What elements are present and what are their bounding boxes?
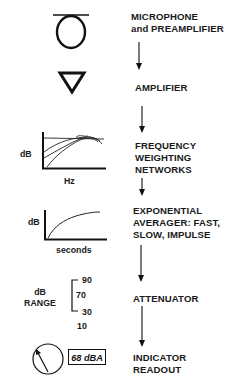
averager-graph-ylabel: dB (28, 217, 40, 228)
label-line: INDICATOR (133, 352, 186, 364)
label-line: FREQUENCY (135, 140, 196, 152)
weighting-graph-xlabel: Hz (64, 176, 75, 187)
label-line: AVERAGER: FAST, (133, 217, 220, 229)
stage-label-amplifier: AMPLIFIER (135, 82, 188, 94)
signal-chain-graphics (0, 0, 245, 392)
label-line: and PREAMPLIFIER (131, 23, 224, 35)
label-line: EXPONENTIAL (133, 205, 220, 217)
frequency-response-graph-icon (42, 132, 106, 169)
range-label-line: RANGE (21, 298, 59, 309)
microphone-icon (53, 15, 89, 48)
stage-label-indicator: INDICATOR READOUT (133, 352, 186, 376)
digital-readout: 68 dBA (68, 349, 106, 365)
label-line: SLOW, IMPULSE (133, 229, 220, 241)
range-value-30: 30 (82, 307, 92, 318)
range-label-line: dB (21, 287, 59, 298)
averager-graph-xlabel: seconds (56, 245, 92, 256)
stage-label-weighting: FREQUENCY WEIGHTING NETWORKS (135, 140, 196, 176)
label-line: READOUT (133, 364, 186, 376)
label-line: AMPLIFIER (135, 82, 188, 94)
amplifier-triangle-icon (60, 73, 84, 92)
label-line: WEIGHTING (135, 152, 196, 164)
label-line: MICROPHONE (131, 11, 224, 23)
range-label: dB RANGE (21, 287, 59, 309)
stage-label-microphone: MICROPHONE and PREAMPLIFIER (131, 11, 224, 35)
stage-label-averager: EXPONENTIAL AVERAGER: FAST, SLOW, IMPULS… (133, 205, 220, 241)
meter-dial-icon (33, 344, 63, 374)
weighting-graph-ylabel: dB (20, 149, 32, 160)
range-value-10: 10 (77, 321, 87, 332)
exponential-curve-graph-icon (44, 210, 107, 240)
label-line: NETWORKS (135, 164, 196, 176)
range-value-90: 90 (82, 275, 92, 286)
range-value-70: 70 (76, 290, 86, 301)
label-line: ATTENUATOR (133, 293, 199, 305)
stage-label-attenuator: ATTENUATOR (133, 293, 199, 305)
